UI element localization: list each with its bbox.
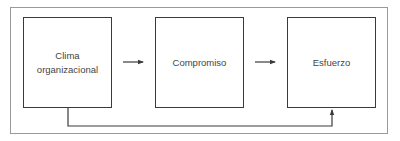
arrow-clima-to-esfuerzo [68,108,332,126]
edges-layer [0,0,400,141]
